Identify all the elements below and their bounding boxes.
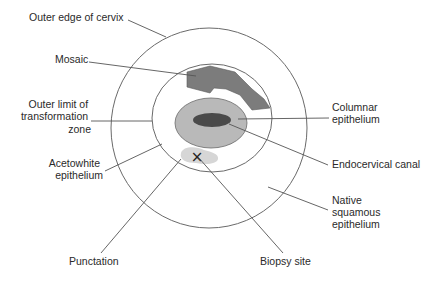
label-outer-edge: Outer edge of cervix [29,11,124,23]
label-acetowhite: Acetowhite epithelium [49,157,104,181]
label-punctation: Punctation [69,255,119,267]
leader-punctation [101,159,181,253]
label-mosaic: Mosaic [55,53,88,65]
label-biopsy: Biopsy site [260,255,311,267]
leader-outer-edge [128,20,166,37]
leader-columnar [238,118,329,119]
leader-native [268,187,328,210]
leader-mosaic [89,62,196,76]
cervix-diagram: × Outer edge of cervix Mosaic Outer limi… [0,0,437,283]
label-columnar: Columnar epithelium [332,101,380,125]
leader-endocervical [229,124,328,165]
endocervical-canal-region [193,113,231,127]
label-endocervical: Endocervical canal [332,158,420,170]
biopsy-x-icon: × [191,148,204,166]
leader-acetowhite [105,144,162,171]
label-outer-limit: Outer limit of transformation zone [21,98,91,135]
label-native: Native squamous epithelium [332,194,383,230]
leader-biopsy [198,157,283,253]
